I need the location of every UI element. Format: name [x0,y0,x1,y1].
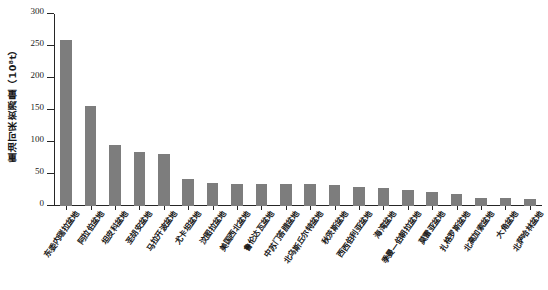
bar [353,187,365,206]
y-axis-tick-label: 150 [31,102,45,112]
y-axis-tick: 0 [47,205,54,206]
bar [304,184,316,206]
bar [451,194,463,206]
bar [207,183,219,206]
bar [524,199,536,206]
bar [475,198,487,206]
y-axis-tick: 100 [47,141,54,142]
y-axis-tick-mark [47,77,54,78]
y-axis-tick-label: 50 [35,166,44,176]
bar [402,190,414,206]
bar [231,184,243,206]
bar [378,188,390,206]
x-axis-tick-label: 东委内瑞拉盆地 [41,208,81,259]
y-axis-tick-label: 0 [40,198,45,208]
y-axis-tick: 150 [47,109,54,110]
bar [256,184,268,206]
y-axis-tick: 250 [47,45,54,46]
bar [85,106,97,206]
chart-page: 重油可采资源量（10⁸t） 050100150200250300 东委内瑞拉盆地… [0,0,548,290]
plot-area: 050100150200250300 [54,14,542,206]
y-axis-tick-mark [47,205,54,206]
y-axis-tick-mark [47,13,54,14]
y-axis-title: 重油可采资源量（10⁸t） [2,0,24,206]
y-axis-tick-label: 100 [31,134,45,144]
x-axis-labels: 东委内瑞拉盆地阿拉伯盆地坦皮科盆地圣胡安盆地马拉开波盆地尤卡坦盆地汶图拉盆地美国… [54,206,548,290]
y-axis-line [54,14,55,206]
y-axis-tick-mark [47,141,54,142]
bar [158,154,170,206]
y-axis-tick: 200 [47,77,54,78]
y-axis-tick: 300 [47,13,54,14]
bar [134,152,146,206]
bar [280,184,292,206]
y-axis-tick-label: 300 [31,6,45,16]
y-axis-tick-mark [47,45,54,46]
y-axis-tick-label: 250 [31,38,45,48]
y-axis-title-text: 重油可采资源量（10⁸t） [6,44,20,162]
y-axis-tick-label: 200 [31,70,45,80]
bar [426,192,438,206]
bar [60,40,72,206]
bar [500,198,512,206]
y-axis-tick: 50 [47,173,54,174]
y-axis-tick-mark [47,109,54,110]
bar [182,179,194,206]
y-axis-tick-mark [47,173,54,174]
bar [109,145,121,206]
bar [329,185,341,206]
